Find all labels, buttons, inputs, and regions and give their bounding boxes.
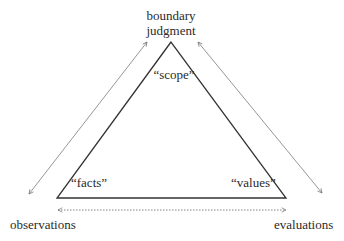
inner-label-scope: “scope” <box>153 67 194 82</box>
inner-label-facts: “facts” <box>71 175 107 190</box>
right-diagonal-arrow <box>198 42 322 193</box>
outer-label-evaluations: evaluations <box>274 217 333 232</box>
left-diagonal-arrow <box>29 42 147 194</box>
inner-label-values: “values” <box>231 175 276 190</box>
diagram-canvas: boundary judgment “scope” “facts” “value… <box>0 0 344 241</box>
apex-label-line1: boundary <box>146 8 195 23</box>
apex-label-line2: judgment <box>146 23 195 38</box>
outer-label-observations: observations <box>10 217 76 232</box>
